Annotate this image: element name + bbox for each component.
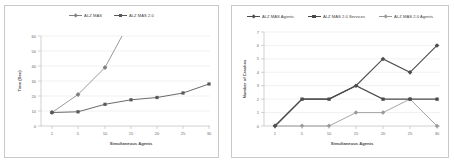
series-alz-mas-20-services [275, 86, 439, 126]
x-tick-label-4: 20 [381, 131, 386, 136]
x-axis-title-left: Simultaneous Agents [110, 141, 153, 146]
data-point [129, 98, 132, 101]
y-tick-label-7: 7 [257, 30, 260, 35]
x-tick-label-0: 1 [51, 131, 54, 136]
y-tick-label-1: 1 [257, 110, 260, 115]
y-tick-label-3: 3 [257, 83, 260, 88]
x-tick-label-1: 5 [301, 131, 304, 136]
y-tick-label-6: 6 [257, 43, 260, 48]
y-tick-label-2: 2 [257, 97, 260, 102]
x-axis-title-right: Simultaneous Agents [331, 141, 374, 146]
x-tick-label-2: 10 [103, 131, 108, 136]
x-tick-label-3: 15 [129, 131, 134, 136]
y-axis-title-right: Number of Crashes [242, 59, 247, 98]
x-tick-label-6: 30 [207, 131, 212, 136]
data-point [327, 124, 332, 129]
y-axis-title-left: Time (Sec) [17, 70, 22, 92]
data-point [76, 110, 79, 113]
y-tick-label-1: 10 [31, 109, 36, 114]
data-point [50, 111, 53, 114]
x-tick-label-4: 20 [155, 131, 160, 136]
data-point [435, 98, 438, 101]
chart-panel-right: ALZ MAS Agents ALZ MAS 2.0 Services ALZ … [231, 5, 449, 158]
data-point [381, 98, 384, 101]
gridlines-right [264, 32, 440, 113]
y-tick-label-2: 20 [31, 94, 36, 99]
series-alz-mas-20 [50, 82, 210, 114]
plot-svg-left: 60 50 40 30 20 10 0 1 5 10 15 20 25 30 S… [5, 6, 218, 157]
x-tick-label-5: 25 [181, 131, 186, 136]
y-tick-label-0: 0 [257, 124, 260, 129]
data-point [181, 91, 184, 94]
plot-svg-right: 7 6 5 4 3 2 1 0 1 5 10 15 20 25 30 Simul… [232, 6, 448, 157]
data-point [155, 96, 158, 99]
plot-area-left: 60 50 40 30 20 10 0 1 5 10 15 20 25 30 S… [5, 6, 218, 157]
x-tick-label-5: 25 [408, 131, 413, 136]
data-point [408, 98, 411, 101]
x-ticks-left [52, 126, 209, 129]
y-tick-label-3: 30 [31, 79, 36, 84]
x-tick-label-0: 1 [274, 131, 277, 136]
y-ticks-left [38, 36, 41, 126]
y-tick-label-0: 0 [34, 124, 37, 129]
data-point [207, 82, 210, 85]
y-tick-label-4: 40 [31, 64, 36, 69]
data-point [354, 110, 359, 115]
x-tick-label-2: 10 [327, 131, 332, 136]
y-tick-label-4: 4 [257, 70, 260, 75]
plot-area-right: 7 6 5 4 3 2 1 0 1 5 10 15 20 25 30 Simul… [232, 6, 448, 157]
data-point [103, 103, 106, 106]
y-tick-label-5: 50 [31, 49, 36, 54]
y-tick-label-6: 60 [31, 34, 36, 39]
x-tick-label-3: 15 [354, 131, 359, 136]
figure-container: ALZ MAS ALZ MAS 2.0 [0, 0, 454, 165]
data-point [300, 124, 305, 129]
x-tick-label-6: 30 [435, 131, 440, 136]
y-ticks-right [261, 32, 264, 126]
x-tick-label-1: 5 [77, 131, 80, 136]
data-point [381, 110, 386, 115]
gridlines-left [41, 36, 210, 111]
chart-panel-left: ALZ MAS ALZ MAS 2.0 [4, 5, 219, 158]
y-tick-label-5: 5 [257, 56, 260, 61]
